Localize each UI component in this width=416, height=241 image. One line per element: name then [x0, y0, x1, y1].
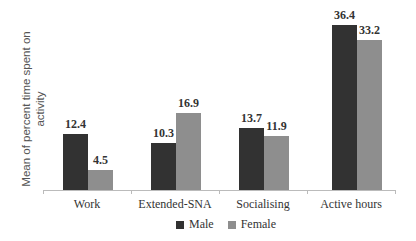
legend-label-male: Male: [189, 217, 214, 232]
category-label: Active hours: [307, 197, 395, 212]
legend: Male Female: [176, 217, 276, 232]
data-label: 16.9: [169, 96, 209, 111]
data-label: 4.5: [81, 153, 121, 168]
data-label: 11.9: [257, 119, 297, 134]
y-axis-label: Mean of percent time spent on activity: [19, 14, 47, 204]
bar-male: [239, 128, 264, 190]
bar-female: [264, 136, 289, 190]
x-axis-tick: [395, 190, 396, 194]
category-label: Work: [43, 197, 131, 212]
category-label: Extended-SNA: [131, 197, 219, 212]
data-label: 33.2: [350, 23, 390, 38]
data-label: 12.4: [56, 117, 96, 132]
legend-swatch-female: [228, 221, 236, 229]
bar-male: [151, 143, 176, 190]
category-label: Socialising: [219, 197, 307, 212]
x-axis-tick: [219, 190, 220, 194]
data-label: 36.4: [325, 8, 365, 23]
x-axis-tick: [307, 190, 308, 194]
x-axis-tick: [131, 190, 132, 194]
legend-label-female: Female: [241, 217, 276, 232]
legend-swatch-male: [176, 221, 184, 229]
bar-female: [357, 40, 382, 190]
bar-female: [176, 113, 201, 190]
x-axis-tick: [43, 190, 44, 194]
bar-female: [88, 170, 113, 190]
bar-male: [332, 25, 357, 190]
